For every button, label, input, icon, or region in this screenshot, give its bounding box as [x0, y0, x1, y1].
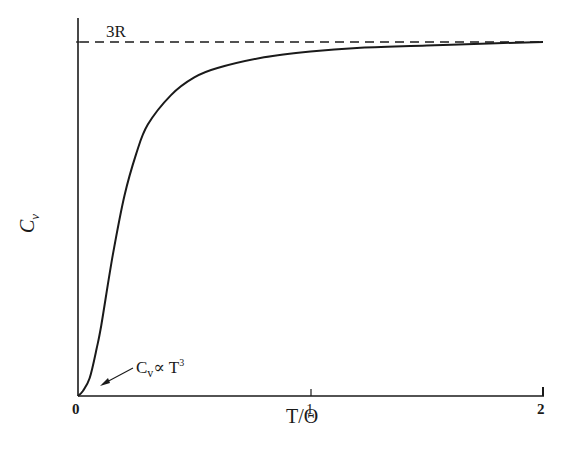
y-axis-label-main: C — [16, 220, 38, 233]
heat-capacity-curve — [78, 42, 543, 396]
annotation-arrow-icon — [100, 368, 133, 386]
y-axis-label-sub: v — [27, 214, 42, 220]
anno-exp: 3 — [179, 357, 184, 368]
x-tick-label-2: 2 — [537, 401, 545, 418]
anno-proportional: ∝ — [153, 358, 165, 377]
low-temp-annotation: Cv∝ T3 — [136, 357, 184, 381]
x-axis-label: T/Θ — [286, 405, 318, 428]
y-axis-label: Cv — [16, 214, 43, 233]
anno-t: T — [169, 358, 179, 377]
heat-capacity-chart — [0, 0, 563, 454]
anno-c: C — [136, 358, 147, 377]
asymptote-label: 3R — [106, 22, 126, 42]
x-tick-label-0: 0 — [72, 401, 80, 418]
